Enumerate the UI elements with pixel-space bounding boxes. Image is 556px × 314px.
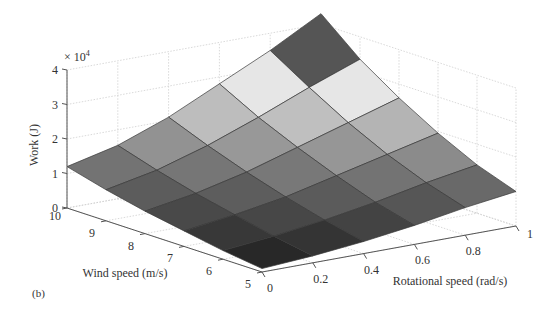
x-tick-label: 0.2 bbox=[313, 272, 328, 286]
y-axis-title: Wind speed (m/s) bbox=[83, 266, 168, 280]
y-tick-label: 7 bbox=[167, 251, 173, 265]
z-tick-label: 3 bbox=[52, 98, 58, 112]
x-axis-title: Rotational speed (rad/s) bbox=[393, 274, 508, 288]
z-exponent-label: × 104 bbox=[64, 49, 90, 64]
y-tick-label: 6 bbox=[206, 264, 212, 278]
z-tick-label: 1 bbox=[52, 167, 58, 181]
z-tick-label: 4 bbox=[52, 63, 58, 77]
x-tick-label: 0.4 bbox=[364, 263, 379, 277]
y-tick-label: 8 bbox=[128, 239, 134, 253]
surface-plot: 01234567891000.20.40.60.81 × 104 Work (J… bbox=[0, 0, 556, 314]
x-tick-label: 0.8 bbox=[466, 244, 481, 258]
x-tick-label: 1 bbox=[527, 227, 533, 241]
y-tick-label: 9 bbox=[89, 226, 95, 240]
y-tick-label: 5 bbox=[245, 277, 251, 291]
x-tick-label: 0 bbox=[267, 281, 273, 295]
y-tick-label: 10 bbox=[49, 209, 61, 223]
z-tick-label: 2 bbox=[52, 132, 58, 146]
z-axis-title: Work (J) bbox=[27, 124, 41, 166]
panel-label: (b) bbox=[32, 287, 45, 299]
x-tick-label: 0.6 bbox=[415, 253, 430, 267]
